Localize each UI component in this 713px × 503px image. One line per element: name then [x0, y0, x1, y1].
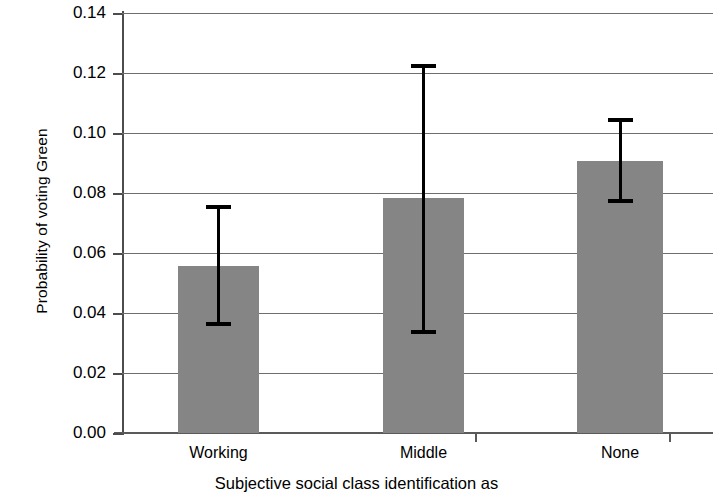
bar-chart: Probability of voting Green 0.000.020.04… — [0, 0, 713, 503]
error-bar-line — [619, 120, 622, 200]
x-axis-title: Subjective social class identification a… — [0, 474, 713, 493]
y-axis-tick-label: 0.14 — [48, 4, 106, 21]
error-bar-cap-lower — [411, 330, 436, 334]
y-axis-tick-label: 0.10 — [48, 124, 106, 141]
y-axis-tick — [113, 73, 122, 75]
y-axis-tick-label: 0.02 — [48, 364, 106, 381]
y-axis-tick — [113, 193, 122, 195]
plot-area — [122, 13, 713, 433]
y-axis-tick — [113, 133, 122, 135]
error-bar-cap-lower — [608, 199, 633, 203]
x-axis-tick-label: Working — [144, 444, 294, 462]
gridline — [122, 133, 713, 134]
y-axis-tick — [113, 253, 122, 255]
y-axis-tick-label: 0.00 — [48, 424, 106, 441]
y-axis-tick-label: 0.08 — [48, 184, 106, 201]
x-axis-tick-label: Middle — [349, 444, 499, 462]
y-axis-tick — [113, 313, 122, 315]
y-axis-tick-labels: 0.000.020.040.060.080.100.120.14 — [48, 0, 106, 503]
error-bar-cap-upper — [608, 118, 633, 122]
error-bar-cap-upper — [206, 205, 231, 209]
y-axis-tick-label: 0.04 — [48, 304, 106, 321]
y-axis-line — [122, 11, 124, 435]
error-bar-cap-lower — [206, 322, 231, 326]
x-axis-tick — [669, 433, 671, 442]
error-bar-cap-upper — [411, 64, 436, 68]
error-bar-line — [422, 66, 425, 332]
y-axis-tick-label: 0.06 — [48, 244, 106, 261]
gridline — [122, 73, 713, 74]
y-axis-tick — [113, 13, 122, 15]
y-axis-tick — [113, 433, 122, 435]
gridline — [122, 13, 713, 14]
y-axis-tick-label: 0.12 — [48, 64, 106, 81]
y-axis-tick — [113, 373, 122, 375]
x-axis-tick — [475, 433, 477, 442]
error-bar-line — [217, 207, 220, 324]
x-axis-tick-label: None — [545, 444, 695, 462]
